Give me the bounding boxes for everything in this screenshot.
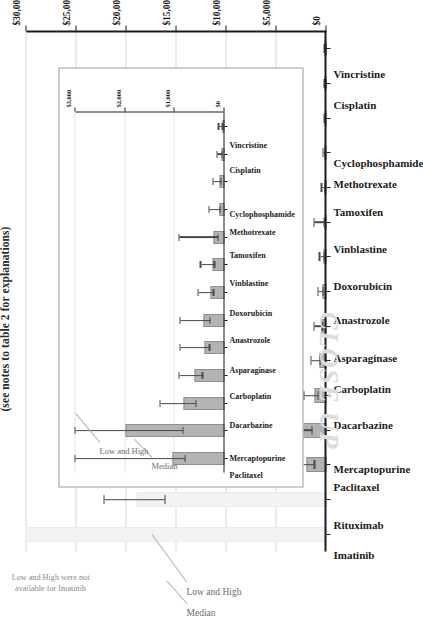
- annotation-imatinib-note-line1: Low and High were not: [11, 573, 89, 582]
- x-axis-category-label-text: Vinblastine: [229, 279, 268, 288]
- x-axis-category-label-text: Paclitaxel: [229, 470, 262, 479]
- x-axis-tick-mark: [326, 221, 330, 222]
- y-axis-tick-mark: [175, 25, 176, 31]
- category-label-slot: Vincristine: [26, 31, 326, 66]
- inset-chart-category-labels: PaclitaxelMercaptopurineDacarbazineCarbo…: [75, 112, 224, 472]
- x-axis-category-label: Methotrexate: [333, 184, 396, 196]
- x-axis-tick-mark: [326, 48, 330, 49]
- x-axis-category-label: Imatinib: [333, 554, 374, 566]
- y-axis-tick-label: $5,000: [261, 0, 271, 25]
- inset-annotation-median: Median: [151, 460, 177, 470]
- x-axis-category-label-text: Doxorubicin: [229, 309, 272, 318]
- category-label-slot: Carboplatin: [75, 361, 224, 389]
- category-label-slot: Methotrexate: [75, 195, 224, 223]
- x-axis-tick-mark: [326, 152, 330, 153]
- x-axis-category-label-text: Vinblastine: [333, 242, 386, 254]
- y-axis-tick-mark: [124, 107, 125, 111]
- y-axis-tick-label: $2,000: [114, 89, 121, 107]
- x-axis-category-label-text: Cyclophosphamide: [333, 157, 423, 169]
- x-axis-category-label: Doxorubicin: [229, 313, 272, 322]
- category-label-slot: Anastrozole: [75, 306, 224, 334]
- inset-annotation-low-and-high: Low and High: [99, 445, 148, 455]
- x-axis-category-label-text: Mercaptopurine: [333, 462, 410, 474]
- category-label-slot: Cisplatin: [75, 140, 224, 168]
- x-axis-category-label-text: Paclitaxel: [333, 481, 379, 493]
- x-axis-category-label: Tamoxifen: [333, 212, 383, 224]
- y-axis-tick-label: $10,000: [211, 0, 221, 25]
- x-axis-category-label-text: Imatinib: [333, 548, 374, 560]
- x-axis-tick-mark: [326, 290, 330, 291]
- y-axis-tick-label: $3,000: [65, 89, 72, 107]
- x-axis-tick-mark: [326, 82, 330, 83]
- x-axis-category-label: Methotrexate: [229, 232, 275, 241]
- x-axis-category-label: Cyclophosphamide: [333, 163, 423, 175]
- x-axis-category-label-text: Vincristine: [229, 140, 266, 149]
- x-axis-tick-mark: [326, 256, 330, 257]
- x-axis-category-label-text: Cisplatin: [229, 165, 260, 174]
- close-up-watermark: CLOSE UP: [312, 311, 343, 449]
- annotation-median-leader: [166, 580, 187, 603]
- y-axis-tick-label: $30,000: [11, 0, 21, 25]
- x-axis-category-label-text: Methotrexate: [333, 178, 396, 190]
- x-axis-category-label-text: Tamoxifen: [229, 250, 265, 259]
- x-axis-tick-mark: [326, 186, 330, 187]
- y-axis-tick-mark: [223, 107, 224, 111]
- category-label-slot: Dacarbazine: [75, 389, 224, 417]
- x-axis-tick-mark: [326, 464, 330, 465]
- y-axis-tick-mark: [325, 25, 326, 31]
- x-axis-category-label: Carboplatin: [229, 396, 271, 405]
- x-axis-tick-mark: [326, 533, 330, 534]
- x-axis-category-label: Dacarbazine: [229, 424, 272, 433]
- y-axis-tick-mark: [75, 25, 76, 31]
- annotation-imatinib-note-line2: available for Imatinib: [15, 584, 86, 593]
- x-axis-category-label: Anastrozole: [229, 340, 270, 349]
- y-axis-tick-mark: [275, 25, 276, 31]
- y-axis-tick-label: $25,000: [61, 0, 71, 25]
- x-axis-category-label: Rituximab: [333, 524, 383, 536]
- y-axis-tick-mark: [74, 107, 75, 111]
- x-axis-category-label-text: Cisplatin: [333, 98, 376, 110]
- y-axis-tick-mark: [225, 25, 226, 31]
- x-axis-category-label-text: Dacarbazine: [229, 420, 272, 429]
- category-label-slot: Asparaginase: [75, 334, 224, 362]
- x-axis-category-label: Vinblastine: [333, 248, 386, 260]
- inset-close-up-panel: $0$1,000$2,000$3,000 PaclitaxelMercaptop…: [58, 67, 303, 487]
- x-axis-category-label: Mercaptopurine: [333, 468, 410, 480]
- x-axis-category-label-text: Asparaginase: [229, 366, 275, 375]
- y-axis-tick-mark: [25, 25, 26, 31]
- x-axis-category-label-text: Mercaptopurine: [229, 454, 285, 463]
- annotation-median: Median: [186, 607, 215, 617]
- y-axis-tick-mark: [125, 25, 126, 31]
- annotation-imatinib-note: Low and High were not available for Imat…: [0, 572, 110, 594]
- category-label-slot: Tamoxifen: [75, 223, 224, 251]
- x-axis-tick-mark: [326, 498, 330, 499]
- category-label-slot: Doxorubicin: [75, 278, 224, 306]
- category-label-slot: Vincristine: [75, 112, 224, 140]
- x-axis-category-label-text: Anastrozole: [229, 336, 270, 345]
- x-axis-category-label: Tamoxifen: [229, 255, 265, 264]
- x-axis-category-label: Paclitaxel: [333, 487, 379, 499]
- x-axis-category-label-text: Tamoxifen: [333, 206, 383, 218]
- y-axis-tick-label: $15,000: [161, 0, 171, 25]
- annotation-low-and-high: Low and High: [186, 586, 241, 596]
- x-axis-category-label: Mercaptopurine: [229, 458, 285, 467]
- category-label-slot: Imatinib: [26, 516, 326, 551]
- y-axis-tick-mark: [173, 107, 174, 111]
- x-axis-category-label-text: Cyclophosphamide: [229, 209, 294, 218]
- x-axis-category-label: Paclitaxel: [229, 475, 262, 484]
- x-axis-category-label-text: Carboplatin: [229, 391, 271, 400]
- category-label-slot: Cyclophosphamide: [75, 167, 224, 195]
- x-axis-category-label-text: Methotrexate: [229, 227, 275, 236]
- x-axis-category-label: Cisplatin: [229, 169, 260, 178]
- x-axis-category-label: Asparaginase: [229, 371, 275, 380]
- inset-chart-plot-area: $0$1,000$2,000$3,000 PaclitaxelMercaptop…: [75, 112, 224, 472]
- x-axis-category-label-text: Rituximab: [333, 518, 383, 530]
- page-title: (see notes to table 2 for explanations): [0, 0, 10, 637]
- x-axis-tick-mark: [326, 117, 330, 118]
- category-label-slot: Vinblastine: [75, 250, 224, 278]
- y-axis-tick-label: $0: [214, 101, 221, 107]
- y-axis-tick-label: $0: [311, 16, 321, 25]
- x-axis-category-label: Vincristine: [229, 145, 266, 154]
